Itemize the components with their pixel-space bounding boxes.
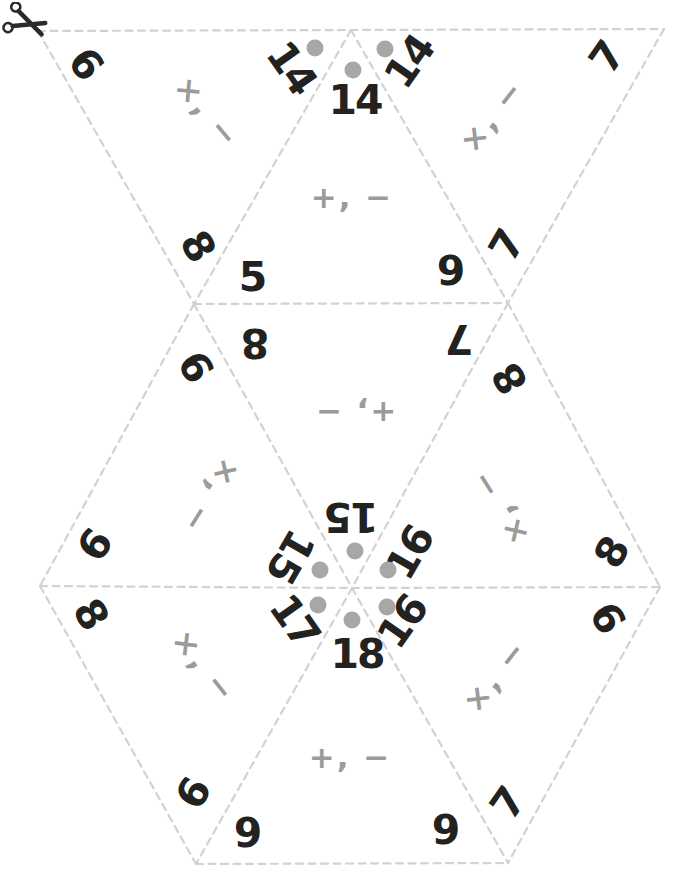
operators-label: +, − bbox=[314, 397, 397, 428]
corner-number: 8 bbox=[243, 322, 270, 363]
target-dot bbox=[380, 562, 397, 579]
corner-number: 7 bbox=[447, 318, 474, 359]
operators-label: +, − bbox=[311, 182, 394, 213]
target-dot bbox=[347, 543, 364, 560]
target-dot bbox=[344, 612, 361, 629]
target-dot bbox=[379, 599, 396, 616]
target-dot bbox=[312, 562, 329, 579]
operators-label: +, − bbox=[309, 742, 392, 773]
scissors-icon bbox=[2, 2, 54, 54]
puzzle-sheet: 6 14 8 ×, − 14 5 9 +, − 14 7 7 ×, − 9 6 … bbox=[0, 0, 675, 875]
target-dot bbox=[377, 41, 394, 58]
target-dot bbox=[307, 40, 324, 57]
target-dot bbox=[310, 597, 327, 614]
corner-number: 9 bbox=[234, 813, 261, 854]
corner-number: 5 bbox=[239, 257, 266, 298]
target-number: 14 bbox=[328, 80, 381, 121]
corner-number: 9 bbox=[437, 251, 464, 292]
target-dot bbox=[345, 62, 362, 79]
target-number: 18 bbox=[330, 634, 383, 675]
corner-number: 9 bbox=[432, 810, 459, 851]
target-number: 15 bbox=[325, 496, 378, 537]
